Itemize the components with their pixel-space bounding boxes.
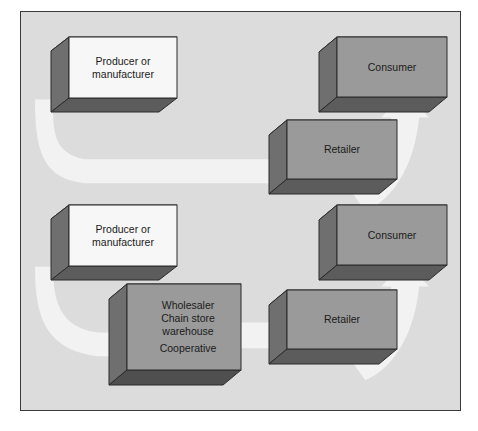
- node-consumer-bottom[interactable]: Consumer: [319, 205, 447, 280]
- node-consumer-top[interactable]: Consumer: [319, 37, 447, 112]
- node-wholesaler-bottom[interactable]: Wholesaler Chain store warehouse Coopera…: [109, 284, 241, 385]
- node-producer-top[interactable]: Producer or manufacturer: [51, 37, 177, 112]
- node-retailer-bottom[interactable]: Retailer: [269, 290, 397, 364]
- diagram-canvas: Producer or manufacturer Consumer: [0, 0, 478, 431]
- node-producer-bottom[interactable]: Producer or manufacturer: [51, 205, 177, 280]
- diagram-frame: Producer or manufacturer Consumer: [20, 11, 461, 411]
- node-retailer-top[interactable]: Retailer: [269, 120, 397, 194]
